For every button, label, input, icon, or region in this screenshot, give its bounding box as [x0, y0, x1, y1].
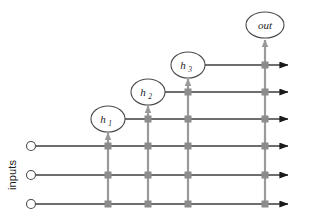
- junction-node: [262, 116, 269, 123]
- hidden-unit-h2-label: h: [140, 86, 146, 98]
- hidden-unit-h1-subscript: 1: [108, 119, 112, 128]
- output-unit: out: [246, 12, 284, 38]
- input-terminal-2: [27, 171, 36, 180]
- junction-node: [262, 62, 269, 69]
- junction-node: [145, 172, 152, 179]
- hidden-unit-h1-label: h: [100, 113, 106, 125]
- junction-node: [105, 172, 112, 179]
- hidden-unit-h2: h 2: [131, 79, 165, 105]
- junction-node: [185, 116, 192, 123]
- junction-node: [262, 89, 269, 96]
- hidden-unit-h1: h 1: [91, 106, 125, 132]
- junction-node: [185, 172, 192, 179]
- junction-node: [262, 143, 269, 150]
- hidden-unit-h3: h 3: [171, 52, 205, 78]
- junction-node: [185, 89, 192, 96]
- junction-group: [105, 62, 269, 208]
- junction-node: [105, 143, 112, 150]
- junction-node: [105, 201, 112, 208]
- hidden-unit-h2-subscript: 2: [148, 92, 152, 101]
- hidden-unit-h3-subscript: 3: [187, 65, 192, 74]
- junction-node: [145, 116, 152, 123]
- input-terminal-1: [27, 142, 36, 151]
- junction-node: [145, 143, 152, 150]
- inputs-axis-label: inputs: [6, 160, 18, 190]
- network-diagram-canvas: h 1 h 2 h 3 out inputs: [0, 0, 310, 219]
- junction-node: [262, 201, 269, 208]
- input-terminal-group: [27, 142, 36, 209]
- junction-node: [185, 201, 192, 208]
- input-terminal-3: [27, 200, 36, 209]
- hidden-unit-h3-label: h: [180, 59, 186, 71]
- junction-node: [262, 172, 269, 179]
- junction-node: [185, 143, 192, 150]
- network-diagram: h 1 h 2 h 3 out inputs: [0, 0, 310, 219]
- junction-node: [145, 201, 152, 208]
- output-unit-label: out: [258, 19, 273, 31]
